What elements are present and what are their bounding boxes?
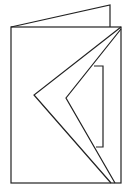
outer-v-flap [34,27,121,183]
folded-card-diagram [0,0,124,189]
window-cutout [94,66,103,147]
back-panel-edge [11,5,110,27]
inner-v-flap [66,29,121,183]
